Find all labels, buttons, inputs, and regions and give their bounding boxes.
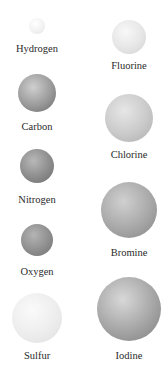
atom-label-sulfur: Sulfur [0,350,77,362]
atom-label-hydrogen: Hydrogen [0,43,77,55]
atom-sphere-oxygen [21,224,53,256]
atom-sphere-sulfur [12,293,62,343]
atom-sphere-hydrogen [29,18,45,34]
atom-label-carbon: Carbon [0,121,77,133]
atom-label-iodine: Iodine [89,350,167,362]
atom-sphere-bromine [101,182,157,238]
atom-label-nitrogen: Nitrogen [0,194,77,206]
atom-sphere-chlorine [105,94,153,142]
atom-sphere-fluorine [112,20,146,54]
atom-label-bromine: Bromine [89,247,167,259]
atom-label-oxygen: Oxygen [0,266,77,278]
atom-sphere-iodine [97,277,161,341]
atom-label-fluorine: Fluorine [89,60,167,72]
atom-sphere-carbon [18,74,56,112]
atom-sphere-nitrogen [20,149,54,183]
atom-label-chlorine: Chlorine [89,149,167,161]
